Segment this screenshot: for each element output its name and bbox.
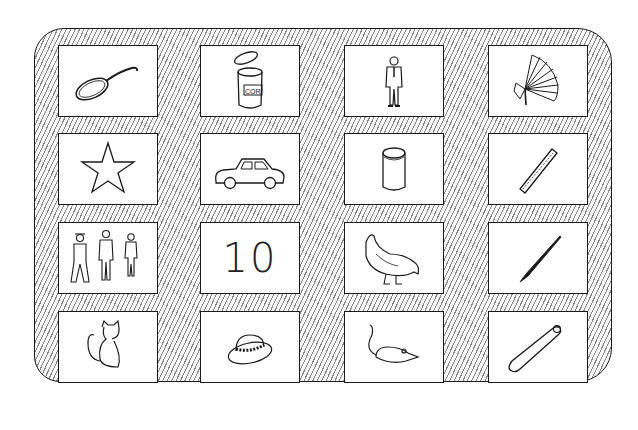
frying-pan-icon: [60, 47, 156, 115]
number-text: 10: [223, 235, 278, 281]
fan-icon: [490, 47, 586, 115]
card-frying-pan[interactable]: [58, 45, 158, 117]
card-open-can[interactable]: COR: [200, 45, 300, 117]
card-folding-fan[interactable]: [488, 45, 588, 117]
pen-icon: [490, 224, 586, 292]
card-mouse[interactable]: [344, 311, 444, 383]
card-hen[interactable]: [344, 222, 444, 294]
can-label: COR: [245, 88, 261, 95]
can-icon: COR: [202, 47, 298, 115]
star-icon: [60, 135, 156, 203]
mouse-icon: [346, 313, 442, 381]
hat-icon: [202, 313, 298, 381]
card-number-ten[interactable]: 10: [200, 222, 300, 294]
cup-icon: [346, 135, 442, 203]
card-car[interactable]: [200, 133, 300, 205]
card-ruler-stick[interactable]: [488, 133, 588, 205]
card-cylinder-cup[interactable]: [344, 133, 444, 205]
card-hat[interactable]: [200, 311, 300, 383]
card-cat[interactable]: [58, 311, 158, 383]
car-icon: [202, 135, 298, 203]
card-star[interactable]: [58, 133, 158, 205]
cat-icon: [60, 313, 156, 381]
bat-icon: [490, 313, 586, 381]
card-pen-nib[interactable]: [488, 222, 588, 294]
card-baseball-bat[interactable]: [488, 311, 588, 383]
ruler-icon: [490, 135, 586, 203]
card-three-people[interactable]: [58, 222, 158, 294]
man-icon: [346, 47, 442, 115]
people-icon: [60, 224, 156, 292]
card-man-in-suit[interactable]: [344, 45, 444, 117]
hen-icon: [346, 224, 442, 292]
